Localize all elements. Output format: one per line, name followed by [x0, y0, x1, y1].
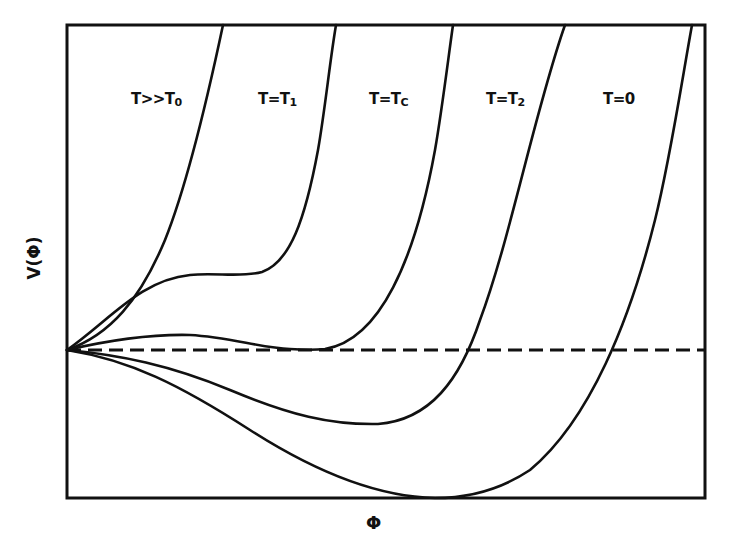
label-main: T>>T [131, 90, 175, 108]
label-main: T=0 [603, 90, 635, 108]
y-axis-label: V(Φ) [24, 236, 44, 279]
curve-t-eq-t1 [67, 25, 336, 350]
label-sub: 1 [290, 96, 297, 109]
label-main: T=T [258, 90, 290, 108]
label-t-eq-tc: T=TC [369, 90, 408, 108]
label-t-eq-t2: T=T2 [486, 90, 525, 108]
label-main: T=T [486, 90, 518, 108]
label-sub: C [401, 96, 409, 109]
label-t-eq-t1: T=T1 [258, 90, 297, 108]
curve-t-eq-t2 [67, 25, 565, 424]
label-sub: 0 [175, 96, 182, 109]
label-t-much-greater-t0: T>>T0 [131, 90, 182, 108]
label-t-eq-0: T=0 [603, 90, 635, 108]
curve-t-much-greater-t0 [67, 25, 223, 350]
x-axis-label: Φ [366, 512, 381, 533]
label-sub: 2 [518, 96, 525, 109]
label-main: T=T [369, 90, 401, 108]
curve-t-eq-tc [67, 25, 453, 350]
potential-plot [0, 0, 730, 558]
